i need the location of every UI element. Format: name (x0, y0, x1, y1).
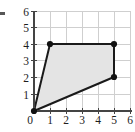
y-tick-label-1: 1 (23, 89, 29, 101)
x-tick-label-1: 1 (47, 114, 53, 126)
x-tick-label-5: 5 (111, 114, 117, 126)
shaded-quadrilateral (34, 44, 114, 111)
x-axis-labels: 0 1 2 3 4 5 6 (27, 114, 133, 126)
coordinate-plot: 0 1 2 3 4 5 6 1 2 3 4 5 6 (0, 0, 135, 132)
x-tick-label-4: 4 (95, 114, 101, 126)
x-tick-label-6: 6 (127, 114, 133, 126)
y-tick-label-3: 3 (23, 55, 29, 67)
vertex-point-c (111, 41, 117, 47)
x-tick-label-2: 2 (63, 114, 69, 126)
y-tick-label-5: 5 (23, 22, 29, 34)
y-tick-label-2: 2 (23, 72, 29, 84)
y-axis-labels: 1 2 3 4 5 6 (23, 6, 29, 101)
coordinate-grid-figure: 0 1 2 3 4 5 6 1 2 3 4 5 6 (0, 0, 135, 132)
y-tick-label-4: 4 (23, 39, 29, 51)
x-tick-label-0: 0 (27, 114, 33, 126)
x-tick-label-3: 3 (79, 114, 85, 126)
vertex-point-b (47, 41, 53, 47)
vertex-point-d (111, 74, 117, 80)
y-tick-label-6: 6 (23, 6, 29, 18)
